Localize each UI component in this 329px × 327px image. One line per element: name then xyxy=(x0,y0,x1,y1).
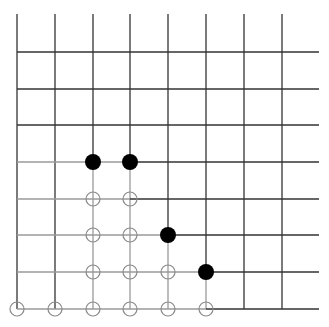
go-board-diagram xyxy=(0,0,329,327)
black-stone xyxy=(122,154,138,170)
black-stones xyxy=(85,154,214,280)
black-stone xyxy=(160,227,176,243)
black-stone xyxy=(85,154,101,170)
empty-point-markers xyxy=(10,192,213,316)
black-stone xyxy=(198,264,214,280)
